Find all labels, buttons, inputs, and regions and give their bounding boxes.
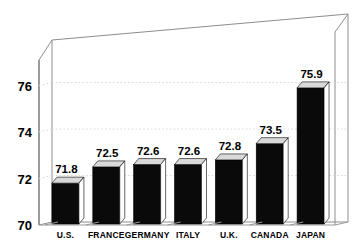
value-label: 75.9	[300, 68, 322, 80]
value-label: 71.8	[55, 163, 78, 175]
bar-front-japan	[297, 88, 324, 224]
chart-container: 70727476 71.872.572.672.672.873.575.9 U.…	[0, 0, 362, 250]
value-label: 72.8	[219, 140, 242, 152]
value-label: 73.5	[260, 124, 283, 136]
bar-side-face	[120, 161, 125, 224]
category-label-u-k-: U.K.	[220, 230, 238, 240]
bar-side-face	[324, 82, 329, 224]
category-label-japan: JAPAN	[296, 230, 325, 240]
bar-top-face	[175, 159, 207, 165]
bar-front-canada	[256, 144, 283, 224]
bar-top-face	[134, 159, 166, 165]
bar-side-face	[201, 159, 206, 224]
value-label: 72.6	[137, 145, 159, 157]
bar-side-face	[242, 154, 247, 224]
value-label: 72.5	[96, 147, 119, 159]
bar-front-italy	[175, 165, 202, 224]
bar-front-u-k-	[215, 160, 242, 224]
bar-top-face	[297, 82, 329, 88]
bar-front-france	[93, 167, 120, 224]
bar-front-u-s-	[52, 183, 79, 224]
y-axis-tick-label: 76	[18, 79, 32, 94]
y-axis-tick-label: 72	[18, 172, 32, 187]
bar-front-germany	[134, 165, 161, 224]
bar-top-face	[93, 161, 125, 167]
bar-side-face	[161, 159, 166, 224]
category-label-canada: CANADA	[251, 230, 289, 240]
category-label-france: FRANCE	[88, 230, 125, 240]
category-label-italy: ITALY	[176, 230, 200, 240]
value-label: 72.6	[178, 145, 200, 157]
bar-top-face	[215, 154, 247, 160]
category-label-germany: GERMANY	[125, 230, 170, 240]
y-axis-tick-label: 74	[18, 125, 33, 140]
category-label-u-s-: U.S.	[57, 230, 74, 240]
x-axis-category-labels: U.S.FRANCEGERMANYITALYU.K.CANADAJAPAN	[57, 230, 325, 240]
bar-side-face	[79, 177, 84, 224]
y-axis-tick-label: 70	[18, 218, 32, 233]
bar-top-face	[256, 138, 288, 144]
bar-top-face	[52, 177, 84, 183]
bar-side-face	[283, 138, 288, 224]
bar-chart: 70727476 71.872.572.672.672.873.575.9 U.…	[0, 0, 362, 250]
